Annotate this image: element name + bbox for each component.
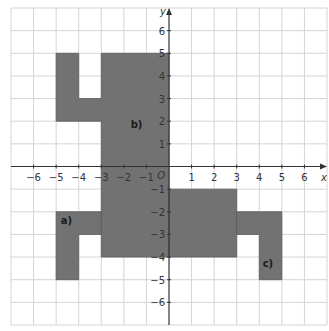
y-tick-label: 6 bbox=[159, 26, 165, 37]
shape-b-label: b) bbox=[131, 119, 143, 130]
x-tick-label: 4 bbox=[256, 172, 262, 183]
y-tick-label: −3 bbox=[150, 229, 165, 240]
y-tick-label: 1 bbox=[159, 139, 165, 150]
x-tick-label: 2 bbox=[211, 172, 217, 183]
y-tick-label: −1 bbox=[150, 184, 165, 195]
shape-a-label: a) bbox=[61, 215, 72, 226]
y-tick-label: 5 bbox=[159, 48, 165, 59]
x-tick-label: 6 bbox=[301, 172, 307, 183]
y-axis-arrow-icon bbox=[166, 8, 172, 15]
x-tick-label: −3 bbox=[94, 172, 109, 183]
y-tick-label: 4 bbox=[159, 71, 165, 82]
y-tick-label: −2 bbox=[150, 207, 165, 218]
origin-label: O bbox=[157, 170, 165, 181]
y-tick-label: 3 bbox=[159, 94, 165, 105]
y-tick-label: −6 bbox=[150, 297, 165, 308]
y-tick-label: −5 bbox=[150, 275, 165, 286]
x-axis-arrow-icon bbox=[320, 164, 327, 170]
shape-b-lower-right bbox=[169, 189, 237, 257]
x-tick-label: −6 bbox=[26, 172, 41, 183]
shape-c bbox=[237, 212, 282, 280]
y-tick-label: 2 bbox=[159, 116, 165, 127]
x-axis-label: x bbox=[320, 172, 327, 183]
y-tick-label: −4 bbox=[150, 252, 165, 263]
x-tick-label: −5 bbox=[49, 172, 64, 183]
shape-c-label: c) bbox=[263, 258, 274, 269]
x-tick-label: −4 bbox=[71, 172, 86, 183]
coordinate-grid-figure: b)a)c) −6−5−4−3−2−1123456654321−1−2−3−4−… bbox=[0, 0, 329, 331]
y-axis-label: y bbox=[159, 6, 167, 17]
x-tick-label: 5 bbox=[279, 172, 285, 183]
x-tick-label: 3 bbox=[234, 172, 240, 183]
x-tick-label: −2 bbox=[116, 172, 131, 183]
coordinate-plane: b)a)c) −6−5−4−3−2−1123456654321−1−2−3−4−… bbox=[0, 0, 329, 331]
x-tick-label: −1 bbox=[139, 172, 154, 183]
x-tick-label: 1 bbox=[188, 172, 194, 183]
